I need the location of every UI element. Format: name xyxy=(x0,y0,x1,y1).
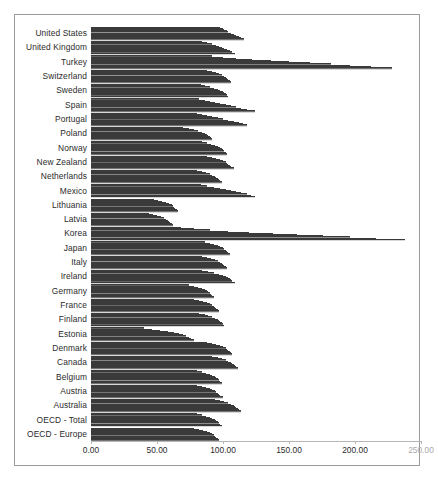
category-label: Turkey xyxy=(61,58,87,66)
bars-container xyxy=(91,198,421,212)
x-axis-tick-label: 50.00 xyxy=(147,446,168,454)
category-label: Australia xyxy=(54,401,87,409)
bar-group: Poland xyxy=(91,126,421,140)
bar-group: Italy xyxy=(91,255,421,269)
bar-group: Latvia xyxy=(91,212,421,226)
bar-group: Germany xyxy=(91,284,421,298)
bars-container xyxy=(91,412,421,426)
x-axis-tick-label: 250.00 xyxy=(408,446,434,454)
x-axis: 0.0050.00100.00150.00200.00250.00 xyxy=(91,441,421,461)
category-label: Belgium xyxy=(56,372,87,380)
x-axis-tick xyxy=(157,441,158,444)
category-label: Germany xyxy=(52,287,87,295)
x-axis-tick xyxy=(91,441,92,444)
x-axis-tick xyxy=(355,441,356,444)
category-label: Netherlands xyxy=(41,172,87,180)
bar-group: Lithuania xyxy=(91,198,421,212)
category-rows: United StatesUnited KingdomTurkeySwitzer… xyxy=(91,26,421,441)
bars-container xyxy=(91,255,421,269)
bar-group: Australia xyxy=(91,398,421,412)
bar-group: Korea xyxy=(91,226,421,240)
bars-container xyxy=(91,40,421,54)
category-label: Portugal xyxy=(55,115,87,123)
bars-container xyxy=(91,55,421,69)
bar-group: New Zealand xyxy=(91,155,421,169)
category-label: Spain xyxy=(65,100,87,108)
category-label: Lithuania xyxy=(52,201,87,209)
bars-container xyxy=(91,355,421,369)
bars-container xyxy=(91,341,421,355)
bar-group: OECD - Total xyxy=(91,412,421,426)
category-label: Canada xyxy=(57,358,87,366)
category-label: Estonia xyxy=(58,329,87,337)
chart-frame: United StatesUnited KingdomTurkeySwitzer… xyxy=(14,14,420,466)
bar-group: Netherlands xyxy=(91,169,421,183)
bar-group: Finland xyxy=(91,312,421,326)
category-label: Mexico xyxy=(60,186,87,194)
bar-group: Sweden xyxy=(91,83,421,97)
category-label: Ireland xyxy=(61,272,87,280)
bars-container xyxy=(91,241,421,255)
bar-group: Switzerland xyxy=(91,69,421,83)
x-axis-tick-label: 150.00 xyxy=(276,446,302,454)
bar-group: OECD - Europe xyxy=(91,427,421,441)
bars-container xyxy=(91,169,421,183)
bar-group: United Kingdom xyxy=(91,40,421,54)
category-label: Denmark xyxy=(52,344,87,352)
bar-group: Estonia xyxy=(91,327,421,341)
bar-group: Belgium xyxy=(91,369,421,383)
bars-container xyxy=(91,140,421,154)
bar-group: Norway xyxy=(91,140,421,154)
category-label: Finland xyxy=(59,315,87,323)
category-label: Poland xyxy=(60,129,87,137)
bars-container xyxy=(91,327,421,341)
category-label: Latvia xyxy=(64,215,87,223)
bar-group: Spain xyxy=(91,98,421,112)
category-label: New Zealand xyxy=(37,158,87,166)
x-axis-tick xyxy=(223,441,224,444)
category-label: United Kingdom xyxy=(26,43,87,51)
bar-group: Denmark xyxy=(91,341,421,355)
bars-container xyxy=(91,384,421,398)
bars-container xyxy=(91,269,421,283)
bars-container xyxy=(91,98,421,112)
category-label: Norway xyxy=(58,143,87,151)
bars-container xyxy=(91,126,421,140)
x-axis-tick-label: 0.00 xyxy=(83,446,99,454)
x-axis-tick xyxy=(421,441,422,444)
x-axis-tick-label: 200.00 xyxy=(342,446,368,454)
category-label: OECD - Total xyxy=(37,415,87,423)
bars-container xyxy=(91,427,421,441)
category-label: Korea xyxy=(64,229,87,237)
bars-container xyxy=(91,212,421,226)
bars-container xyxy=(91,284,421,298)
bar-group: United States xyxy=(91,26,421,40)
category-label: France xyxy=(60,301,87,309)
bar-group: Turkey xyxy=(91,55,421,69)
bars-container xyxy=(91,69,421,83)
bars-container xyxy=(91,226,421,240)
bars-container xyxy=(91,155,421,169)
plot-area: United StatesUnited KingdomTurkeySwitzer… xyxy=(15,15,419,465)
bars-container xyxy=(91,312,421,326)
bar-group: Canada xyxy=(91,355,421,369)
bar-group: Ireland xyxy=(91,269,421,283)
x-axis-line xyxy=(91,441,421,442)
bars-container xyxy=(91,298,421,312)
bars-container xyxy=(91,398,421,412)
x-axis-tick-label: 100.00 xyxy=(210,446,236,454)
bar-group: France xyxy=(91,298,421,312)
bars-container xyxy=(91,26,421,40)
bar-group: Japan xyxy=(91,241,421,255)
category-label: Italy xyxy=(71,258,87,266)
category-label: Austria xyxy=(60,387,87,395)
category-label: Sweden xyxy=(56,86,87,94)
category-label: OECD - Europe xyxy=(27,430,87,438)
bars-container xyxy=(91,183,421,197)
bar-group: Mexico xyxy=(91,183,421,197)
bar-group: Portugal xyxy=(91,112,421,126)
bars-container xyxy=(91,83,421,97)
bars-container xyxy=(91,112,421,126)
category-label: United States xyxy=(35,29,87,37)
bars-container xyxy=(91,369,421,383)
